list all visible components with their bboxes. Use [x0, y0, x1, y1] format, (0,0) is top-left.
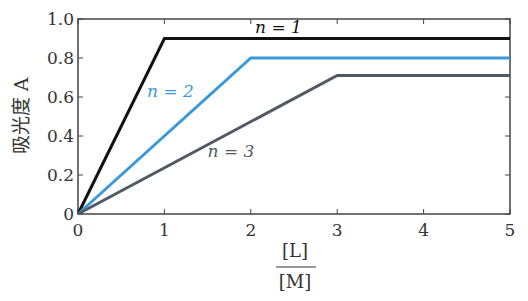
y-tick-label: 0.8: [47, 48, 74, 68]
series-annotation: n = 3: [208, 141, 255, 161]
series-annotation: n = 1: [255, 17, 302, 37]
y-tick-label: 1.0: [47, 9, 74, 29]
x-tick-label: 3: [332, 220, 343, 240]
series-annotation: n = 2: [147, 81, 194, 101]
plot-frame: [78, 19, 510, 214]
series-lines: [78, 39, 510, 215]
series-line: [78, 39, 510, 215]
x-label-denominator: [M]: [279, 271, 311, 292]
x-tick-label: 2: [245, 220, 256, 240]
x-tick-label: 0: [73, 220, 84, 240]
y-axis-label: 吸光度 A: [10, 77, 32, 154]
y-tick-label: 0.2: [47, 165, 74, 185]
x-axis: 012345: [73, 19, 516, 240]
chart: 00.20.40.60.81.0 012345 n = 1n = 2n = 3 …: [0, 0, 528, 301]
series-line: [78, 76, 510, 214]
x-tick-label: 4: [418, 220, 429, 240]
y-tick-label: 0.4: [47, 126, 74, 146]
y-tick-label: 0.6: [47, 87, 74, 107]
y-axis: 00.20.40.60.81.0: [47, 9, 510, 224]
x-tick-label: 1: [159, 220, 170, 240]
x-label-numerator: [L]: [282, 240, 308, 261]
x-tick-label: 5: [505, 220, 516, 240]
